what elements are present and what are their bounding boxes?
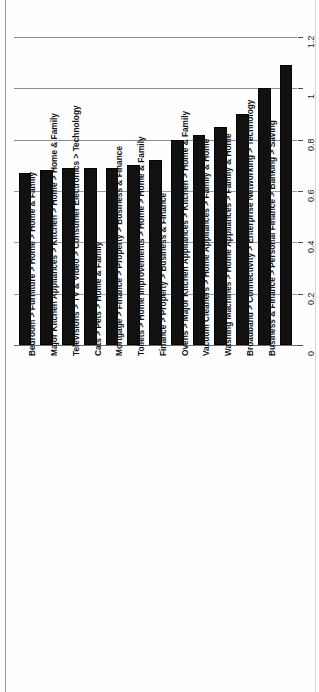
- tick-mark: [298, 294, 303, 295]
- value-axis-tick-label: 0.4: [306, 241, 316, 254]
- category-label: Major Kitchen Appliances > Kitchen > Hom…: [50, 113, 58, 356]
- category-label: Business & Finance > Personal Finance > …: [268, 120, 276, 356]
- value-axis-tick-label: 0.6: [306, 189, 316, 202]
- category-label: Finance > Property > Business & Finance: [159, 193, 167, 356]
- tick-mark: [298, 242, 303, 243]
- category-label: Vacuum Cleaners > Home Appliances > Fami…: [202, 139, 210, 356]
- tick-mark: [298, 140, 303, 141]
- value-axis-tick-label: 0: [306, 351, 316, 356]
- bar: [280, 65, 293, 345]
- tick-mark: [298, 37, 303, 38]
- category-label: Ovens > Major Kitchen Appliances > Kitch…: [181, 111, 189, 356]
- category-axis-labels: Bedroom > Furniture > Home > Home & Fami…: [14, 352, 297, 687]
- value-axis-tick-label: 1.2: [306, 35, 316, 48]
- category-label: Televisions > TV & Video > Consumer Elec…: [72, 105, 80, 356]
- category-label: Broadband > Connectivity > Enterprise Ne…: [246, 100, 254, 356]
- tick-mark: [298, 191, 303, 192]
- tick-mark: [298, 88, 303, 89]
- tick-mark: [298, 345, 303, 346]
- page-border-right: [315, 0, 316, 692]
- value-axis-tick-label: 0.2: [306, 292, 316, 305]
- category-label: Cats > Pets > Home & Family: [94, 242, 102, 356]
- category-label: Washing Machines > Home Appliances > Fam…: [224, 133, 232, 356]
- category-label: Bedroom > Furniture > Home > Home & Fami…: [28, 172, 36, 356]
- category-label: Toilets > Home Improvements > Home > Hom…: [137, 136, 145, 356]
- value-axis-tick-label: 1: [306, 94, 316, 99]
- value-axis-tick-label: 0.8: [306, 138, 316, 151]
- chart-page: 00.20.40.60.811.2 Bedroom > Furniture > …: [0, 0, 319, 692]
- category-label: Mortgage > Finance > Property > Business…: [115, 146, 123, 356]
- page-border-left: [5, 0, 6, 692]
